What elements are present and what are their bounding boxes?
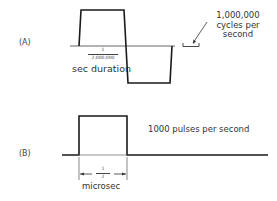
frequency-annotation: 1,000,000 cycles per second: [203, 11, 273, 40]
arrow-left-icon: [80, 173, 84, 176]
fraction-numerator: 1: [102, 166, 105, 171]
pulse-width-unit: microsec: [82, 182, 120, 191]
waveform-diagram: (A) 1 2,000,000 sec duration 1,000,000 c…: [0, 0, 277, 201]
frequency-unit-line2: second: [203, 30, 273, 40]
scale-bracket: [183, 43, 199, 47]
fraction-numerator: 1: [102, 47, 105, 52]
duration-text: sec duration: [72, 64, 131, 74]
arrow-right-icon: [122, 173, 126, 176]
fraction-denominator: 2: [102, 174, 105, 179]
pulse-rate-text: 1000 pulses per second: [148, 125, 249, 134]
pulse-b: [62, 116, 268, 155]
fraction-denominator: 2,000,000: [92, 55, 115, 60]
panel-label-b: (B): [19, 150, 31, 158]
panel-label-a: (A): [19, 39, 31, 47]
duration-fraction: 1 2,000,000: [88, 48, 118, 60]
pulse-width-fraction: 1 2: [96, 167, 110, 179]
